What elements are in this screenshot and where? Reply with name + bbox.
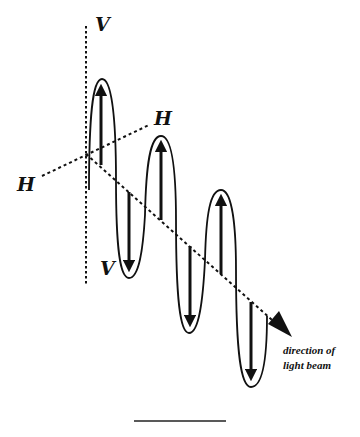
label-h-left: H	[16, 173, 36, 195]
wave-outline	[89, 79, 267, 387]
horizontal-axis	[42, 125, 149, 176]
polarized-light-diagram: V V H H direction of light beam	[0, 0, 360, 437]
diagram-canvas: V V H H direction of light beam	[0, 0, 360, 437]
beam-arrowhead-icon	[268, 311, 292, 337]
label-v-bottom: V	[100, 257, 117, 279]
label-h-right: H	[153, 107, 173, 129]
caption-direction: direction of	[283, 344, 337, 356]
caption-light-beam: light beam	[283, 359, 331, 371]
label-v-top: V	[95, 13, 112, 35]
